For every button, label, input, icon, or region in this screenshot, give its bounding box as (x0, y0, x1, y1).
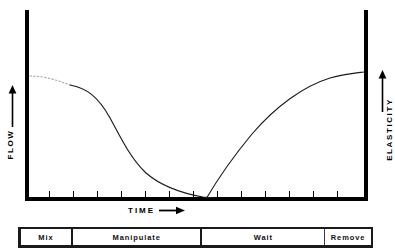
arrow-right-icon (159, 206, 185, 215)
curve-layer (0, 0, 395, 205)
plot-area: FLOW ELASTICITY (0, 0, 395, 205)
flow-curve (70, 85, 214, 198)
phase-segment-label: Mix (38, 233, 53, 242)
phase-segment-label: Manipulate (113, 233, 161, 242)
flow-curve-lead-in (30, 76, 70, 85)
phase-segment-manipulate: Manipulate (71, 229, 201, 245)
elasticity-curve (206, 72, 364, 199)
phase-segment-remove: Remove (324, 229, 371, 245)
phase-segment-mix: Mix (21, 229, 71, 245)
phase-bar: Mix Manipulate Wait Remove (18, 227, 373, 248)
phase-segment-label: Wait (254, 233, 273, 242)
x-axis-label-group: TIME (128, 206, 185, 215)
phase-segment-wait: Wait (200, 229, 324, 245)
flow-elasticity-figure: FLOW ELASTICITY TIME Mix Manipulate Wait… (0, 0, 395, 252)
x-axis-label: TIME (128, 206, 155, 215)
phase-segment-label: Remove (331, 233, 366, 242)
y-axis-right-label: ELASTICITY (385, 93, 394, 167)
y-axis-left-label: FLOW (6, 122, 15, 168)
